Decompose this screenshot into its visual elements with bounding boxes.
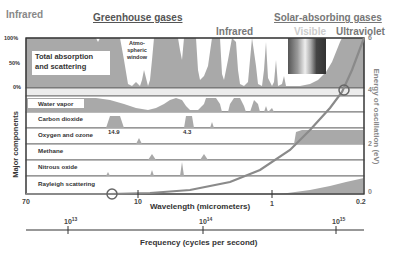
right-tick-6: 6	[368, 34, 372, 41]
wavelength-tick-70: 70	[22, 198, 30, 205]
freq-tick-exp: 15	[340, 216, 346, 222]
frequency-tick-1e14: 1014	[199, 216, 212, 225]
wavelength-axis-label: Wavelength (micrometers)	[150, 202, 250, 211]
freq-tick-exp: 14	[207, 216, 213, 222]
freq-tick-base: 10	[199, 218, 207, 225]
component-nitrous-oxide: Nitrous oxide	[38, 163, 78, 170]
window-label-line2: spheric	[122, 47, 152, 54]
freq-tick-base: 10	[64, 218, 72, 225]
right-tick-0: 0	[368, 188, 372, 195]
frequency-tick-1e15: 1015	[332, 216, 345, 225]
wavelength-tick-1: 1	[270, 200, 274, 207]
ytick-100: 100%	[4, 35, 18, 41]
window-label-line1: Atmo-	[122, 40, 152, 47]
wavelength-tick-0-2: 0.2	[356, 198, 366, 205]
component-rayleigh-scattering: Rayleigh scattering	[38, 180, 95, 187]
frequency-tick-1e13: 1013	[64, 216, 77, 225]
frequency-axis-label: Frequency (cycles per second)	[140, 238, 257, 247]
major-components-axis-label: Major components	[11, 111, 20, 178]
component-carbon-dioxide: Carbon dioxide	[38, 115, 83, 122]
component-oxygen-ozone: Oxygen and ozone	[38, 131, 93, 138]
total-absorption-line2: and scattering	[35, 62, 107, 72]
freq-tick-exp: 13	[72, 216, 78, 222]
energy-axis-label: Energy of oscillation (eV)	[372, 68, 381, 164]
total-absorption-label: Total absorption and scattering	[32, 51, 110, 75]
total-absorption-line1: Total absorption	[35, 52, 107, 62]
visible-band	[288, 38, 326, 74]
co2-annotation-4-3: 4.3	[183, 129, 191, 135]
window-label-line3: window	[122, 54, 152, 61]
wavelength-tick-10: 10	[134, 198, 142, 205]
ytick-50: 50%	[9, 60, 20, 66]
component-water-vapor: Water vapor	[28, 99, 84, 108]
co2-annotation-14-9: 14.9	[108, 129, 120, 135]
ytick-0: 0%	[13, 84, 21, 90]
freq-tick-base: 10	[332, 218, 340, 225]
component-methane: Methane	[38, 147, 63, 154]
atmospheric-window-label: Atmo- spheric window	[122, 40, 152, 61]
